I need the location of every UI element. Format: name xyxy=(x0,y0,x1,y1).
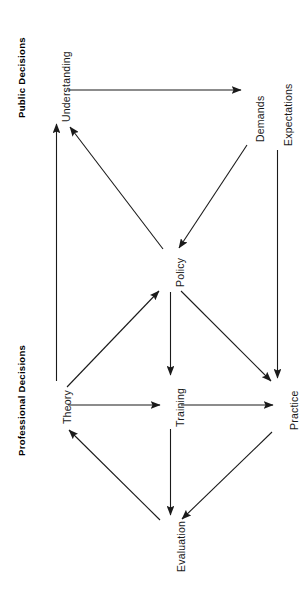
group-label-public-decisions: Public Decisions xyxy=(17,37,27,118)
node-label-training: Training xyxy=(175,388,186,427)
edge-demands-to-policy xyxy=(179,145,247,248)
edge-policy-to-understanding xyxy=(70,127,163,249)
node-label-practice: Practice xyxy=(289,390,300,430)
edge-practice-to-evaluation xyxy=(182,432,272,519)
node-label-evaluation: Evaluation xyxy=(176,521,187,572)
diagram-edges-layer xyxy=(0,0,303,597)
node-label-expectations: Expectations xyxy=(283,83,294,146)
node-label-understanding: Understanding xyxy=(61,51,72,122)
node-label-policy: Policy xyxy=(175,258,186,287)
edge-policy-to-practice xyxy=(181,291,271,381)
node-label-theory: Theory xyxy=(62,390,73,424)
diagram-canvas: Public Decisions Professional Decisions … xyxy=(0,0,303,597)
edge-evaluation-to-theory xyxy=(69,430,160,520)
edge-theory-to-policy xyxy=(67,291,159,387)
group-label-professional-decisions: Professional Decisions xyxy=(17,345,27,456)
node-label-demands: Demands xyxy=(255,96,266,142)
